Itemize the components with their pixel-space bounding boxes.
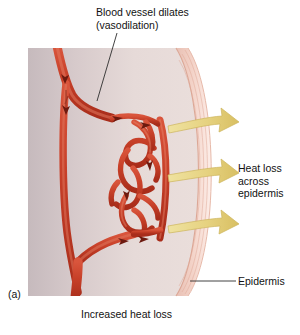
label-vasodilation: Blood vessel dilates (vasodilation) bbox=[96, 6, 189, 31]
label-heat-loss: Heat loss across epidermis bbox=[238, 162, 284, 200]
label-epidermis: Epidermis bbox=[238, 275, 285, 288]
figure-canvas: Blood vessel dilates (vasodilation) Heat… bbox=[0, 0, 300, 335]
dermis-layer bbox=[28, 48, 199, 296]
panel-label: (a) bbox=[8, 288, 21, 301]
figure-caption: Increased heat loss bbox=[81, 308, 172, 321]
